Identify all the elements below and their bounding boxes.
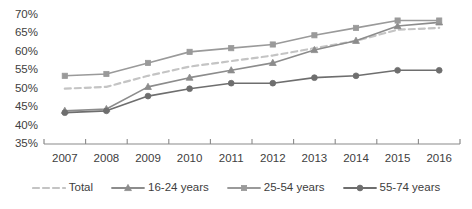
legend-label: 25-54 years [264, 182, 325, 194]
legend-swatch-circle-marker [343, 182, 377, 194]
legend-swatch-triangle-marker [111, 182, 145, 194]
legend-swatch-dashed-line [32, 182, 66, 194]
chart-legend: Total16-24 years25-54 years55-74 years [0, 176, 472, 200]
legend-item-total[interactable]: Total [32, 182, 93, 194]
x-axis-tick-label: 2013 [302, 153, 328, 165]
x-axis-tick-label: 2009 [135, 153, 161, 165]
x-axis-tick-label: 2014 [343, 153, 369, 165]
x-axis-tick-label: 2008 [94, 153, 120, 165]
x-axis-tick-label: 2011 [219, 153, 244, 165]
data-point-square [241, 185, 246, 190]
legend-label: 16-24 years [148, 182, 209, 194]
x-axis-tick-label: 2007 [52, 153, 78, 165]
x-axis-tick-label: 2012 [260, 153, 286, 165]
x-axis-tick-label: 2016 [426, 153, 452, 165]
data-point-circle [357, 185, 363, 191]
x-axis-tick-label: 2010 [177, 153, 203, 165]
legend-item-16-24-years[interactable]: 16-24 years [111, 182, 209, 194]
legend-label: 55-74 years [380, 182, 441, 194]
x-axis-tick-label: 2015 [385, 153, 411, 165]
legend-label: Total [69, 182, 93, 194]
legend-swatch-square-marker [227, 182, 261, 194]
legend-item-55-74-years[interactable]: 55-74 years [343, 182, 441, 194]
line-chart: 35%40%45%50%55%60%65%70% 200720082009201… [0, 0, 472, 209]
legend-item-25-54-years[interactable]: 25-54 years [227, 182, 325, 194]
